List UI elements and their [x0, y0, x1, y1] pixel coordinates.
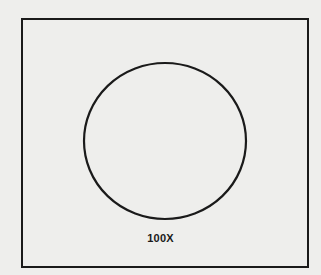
field-of-view-circle	[84, 63, 246, 219]
magnification-label: 100X	[0, 232, 321, 244]
